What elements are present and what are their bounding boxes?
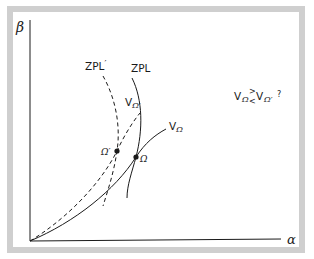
svg-text:<: < — [249, 97, 256, 106]
y-axis-label: β — [15, 19, 24, 35]
comparison-question: V Ω > < V Ω′ ? — [234, 87, 281, 106]
omega-prime-label: Ω′ — [100, 147, 111, 157]
svg-text:Ω′: Ω′ — [263, 95, 273, 104]
x-axis-label: α — [287, 232, 296, 247]
omega-point — [133, 154, 138, 159]
v-omega-curve — [30, 129, 166, 241]
zpl-prime-label: ZPL′ — [85, 59, 106, 72]
svg-text:V: V — [256, 90, 264, 102]
x-axis — [30, 239, 281, 241]
omega-prime-point — [114, 148, 119, 153]
svg-text:V: V — [234, 90, 242, 102]
zpl-diagram: β α ZPL′ ZPL VΩ′ VΩ Ω′ Ω V Ω > < V Ω′ ? — [0, 0, 314, 259]
v-omega-prime-curve — [30, 113, 140, 241]
v-omega-label: VΩ — [169, 120, 183, 134]
svg-text:Ω: Ω — [241, 95, 249, 104]
zpl-label: ZPL — [131, 62, 151, 74]
svg-text:?: ? — [277, 90, 281, 99]
frame-border — [10, 9, 302, 250]
omega-label: Ω — [139, 154, 148, 164]
svg-text:>: > — [249, 87, 256, 96]
zpl-prime-curve — [103, 76, 118, 206]
